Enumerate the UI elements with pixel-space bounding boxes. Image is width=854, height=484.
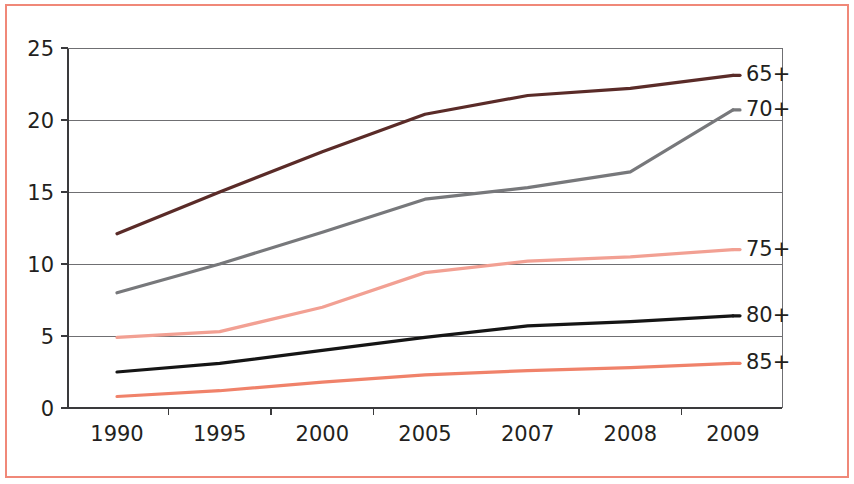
x-tick-label-2007: 2007 bbox=[501, 422, 554, 446]
axes bbox=[68, 48, 782, 408]
series-line-85+ bbox=[117, 363, 733, 396]
y-tick-label: 0 bbox=[41, 397, 54, 421]
line-chart: 0510152025 1990199520002005200720082009 … bbox=[0, 0, 854, 484]
series-end-labels: 65+70+75+80+85+ bbox=[746, 62, 790, 374]
series-line-75+ bbox=[117, 250, 733, 338]
gridlines bbox=[68, 48, 782, 336]
series-line-70+ bbox=[117, 110, 733, 293]
x-tick-label-1995: 1995 bbox=[193, 422, 246, 446]
y-tick-label: 20 bbox=[27, 109, 54, 133]
series-label-65+: 65+ bbox=[746, 62, 790, 86]
series-label-75+: 75+ bbox=[746, 237, 790, 261]
x-tick-label-2000: 2000 bbox=[296, 422, 349, 446]
x-tick-label-2005: 2005 bbox=[398, 422, 451, 446]
y-tick-label: 25 bbox=[27, 37, 54, 61]
x-tick-label-2008: 2008 bbox=[604, 422, 657, 446]
series-label-80+: 80+ bbox=[746, 303, 790, 327]
x-axis-tick-labels: 1990199520002005200720082009 bbox=[90, 422, 759, 446]
series-line-80+ bbox=[117, 316, 733, 372]
data-series-lines bbox=[117, 75, 740, 396]
chart-figure: 0510152025 1990199520002005200720082009 … bbox=[0, 0, 854, 484]
series-line-65+ bbox=[117, 75, 733, 233]
y-tick-label: 10 bbox=[27, 253, 54, 277]
y-tick-label: 5 bbox=[41, 325, 54, 349]
x-tick-label-1990: 1990 bbox=[90, 422, 143, 446]
y-tick-label: 15 bbox=[27, 181, 54, 205]
series-label-85+: 85+ bbox=[746, 350, 790, 374]
y-axis-tick-labels: 0510152025 bbox=[27, 37, 54, 421]
series-label-70+: 70+ bbox=[746, 97, 790, 121]
x-tickmarks bbox=[61, 48, 682, 415]
x-tick-label-2009: 2009 bbox=[706, 422, 759, 446]
